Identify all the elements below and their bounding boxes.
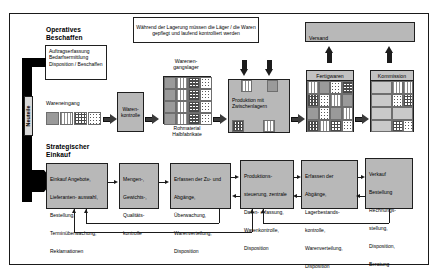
feedback-line-mid	[86, 223, 219, 224]
arrow-kontrolle-to-lager	[145, 114, 159, 124]
grid-kommission: Kommission	[370, 70, 414, 132]
arrow-down-produktion-2	[265, 60, 274, 77]
box-verkauf: Verkauf Bestellung Rechnungs- stellung, …	[365, 158, 413, 209]
box-einkauf: Einkauf Angebote, Lieferanten- auswahl, …	[46, 163, 108, 209]
storage-note-text: Während der Lagerung müssen die Läger / …	[134, 24, 258, 37]
feedback-line-right	[263, 223, 389, 224]
box-mengenkontrolle: Mengen-, Gewichts-, Qualitäts- kontrolle	[119, 163, 159, 209]
connector-rev-tip-2	[293, 194, 297, 198]
grid-fertigwaren: Fertigwaren	[306, 70, 354, 132]
grid-wareneingangslager	[163, 76, 211, 124]
connector-tip-4	[297, 175, 301, 179]
label-kommission: Kommission	[371, 71, 413, 81]
swatch-wareneingang-1	[46, 112, 59, 125]
arrow-up-versand-1	[325, 46, 334, 64]
tab-neuteile-label: Neuteile	[26, 106, 32, 127]
feedback-riser-2	[219, 209, 220, 223]
arrow-wareneingang-to-kontrolle	[103, 114, 117, 124]
connector-tip-2	[165, 180, 169, 184]
connector-rev-tip-1	[232, 194, 236, 198]
arrow-up-versand-2	[385, 46, 394, 64]
bracket-bottom-arm	[22, 170, 44, 192]
diagram-canvas: Während der Lagerung müssen die Läger / …	[0, 0, 436, 276]
bracket-top-arm	[22, 58, 46, 67]
box-warenkontrolle: Waren- kontrolle	[117, 92, 144, 132]
heading-strategischer-einkauf: Strategischer Einkauf	[46, 143, 89, 159]
swatch-wareneingang-2	[60, 112, 73, 125]
swatch-wareneingang-3	[74, 112, 87, 125]
box-produktion-text: Produktion mit Zwischenlagern	[232, 97, 289, 110]
feedback-line-long-1	[74, 232, 252, 233]
arrow-lager-to-produktion	[213, 114, 227, 124]
swatch-wareneingang-4	[88, 112, 101, 125]
arrow-produktion-to-fertigwaren	[291, 114, 305, 124]
box-warenkontrolle-text: Waren- kontrolle	[120, 106, 141, 119]
box-auftragserfassung: Auftragserfassung Bedarfsermittlung Disp…	[45, 45, 107, 80]
arrow-fertigwaren-to-kommission	[355, 114, 369, 124]
connector-rev-abgaenge-to-produktion	[297, 196, 302, 197]
label-wareneingangslager: Warenen- gangslager	[160, 58, 212, 70]
storage-note-box: Während der Lagerung müssen die Läger / …	[133, 17, 259, 43]
feedback-stem-einkauf	[74, 222, 75, 232]
box-erfassen-zugaenge: Erfassen der Zu- und Abgänge, Überwachun…	[170, 163, 231, 209]
box-versand-text: Versand	[309, 35, 328, 41]
label-fertigwaren: Fertigwaren	[307, 71, 353, 81]
feedback-tip-riser-1	[250, 209, 254, 213]
connector-tip-1	[114, 180, 118, 184]
connector-tip-5	[361, 175, 365, 179]
label-wareneingang: Wareneingang	[46, 100, 80, 106]
arrow-down-produktion-1	[240, 60, 249, 77]
feedback-stem-einkauf-2	[74, 209, 75, 222]
connector-rev-produktion-to-erfassen	[236, 196, 241, 197]
box-auftragserfassung-text: Auftragserfassung Bedarfsermittlung Disp…	[46, 46, 106, 67]
connector-rev-tip-3	[356, 194, 360, 198]
feedback-tip-produktion	[261, 209, 265, 213]
tab-neuteile: Neuteile	[24, 96, 33, 136]
heading-operatives-beschaffen: Operatives Beschaffen	[46, 26, 83, 42]
box-produktion: Produktion mit Zwischenlagern	[228, 79, 290, 133]
feedback-riser-3	[389, 209, 390, 223]
box-erfassen-abgaenge: Erfassen der Abgänge, Lagerbestands- kon…	[301, 160, 358, 209]
connector-tip-3	[235, 175, 239, 179]
connector-rev-verkauf-to-abgaenge	[360, 196, 366, 197]
feedback-tip-einkauf-2	[84, 209, 88, 213]
label-rohmaterial: Rohmaterial Halbfabrikate	[160, 126, 214, 138]
box-produktionssteuerung: Produktions- steuerung, zentrale Daten- …	[240, 160, 294, 209]
box-versand: Versand	[305, 22, 415, 42]
